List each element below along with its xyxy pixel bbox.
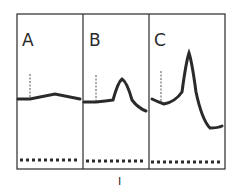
trace-c [152,53,222,128]
trace-a [18,94,80,99]
figure-caption: I [118,175,121,188]
panel-label-c: C [154,30,166,50]
figure: A B C I [0,0,237,192]
trace-b [84,79,146,111]
outer-frame [17,14,225,169]
panel-label-a: A [22,30,34,50]
panel-label-b: B [89,30,101,50]
